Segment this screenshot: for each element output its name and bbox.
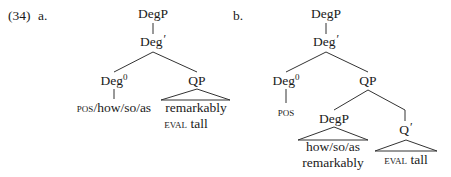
node-b-qbar-label: Q bbox=[399, 122, 409, 137]
syntax-tree-figure: (34) a. b. DegP Deg′ Deg0 pos/how/so/as … bbox=[0, 0, 451, 177]
node-a-qp: QP bbox=[188, 73, 205, 89]
terminal-a-tall: tall bbox=[187, 116, 208, 131]
terminal-b-pos: pos bbox=[278, 104, 295, 120]
terminal-b-eval: eval bbox=[384, 152, 407, 167]
superscript-zero: 0 bbox=[123, 72, 128, 82]
edge-b-qp-degp bbox=[334, 90, 368, 110]
terminal-b-remarkably: remarkably bbox=[302, 155, 363, 171]
terminal-a-eval: eval bbox=[164, 116, 187, 131]
node-b-degbar-label: Deg bbox=[313, 34, 336, 49]
prime-mark: ′ bbox=[410, 120, 413, 134]
edge-b-degbar-qp bbox=[326, 52, 368, 72]
terminal-b-how-so-as: how/so/as bbox=[306, 139, 360, 155]
node-b-degbar: Deg′ bbox=[313, 34, 339, 50]
terminal-b-pos-label: pos bbox=[278, 104, 295, 119]
terminal-b-eval-tall: eval tall bbox=[384, 152, 427, 168]
triangle-b-qbar bbox=[375, 140, 437, 151]
example-label-b: b. bbox=[233, 8, 243, 24]
prime-mark: ′ bbox=[163, 32, 166, 46]
edge-a-degbar-deg0 bbox=[114, 52, 153, 72]
node-a-degbar: Deg′ bbox=[140, 34, 166, 50]
terminal-b-tall: tall bbox=[407, 152, 428, 167]
edge-b-qp-qbar bbox=[368, 90, 405, 121]
tree-edges bbox=[0, 0, 451, 177]
node-b-deg0-label: Deg bbox=[273, 73, 296, 88]
terminal-a-eval-tall: eval tall bbox=[164, 116, 207, 132]
node-a-deg0-label: Deg bbox=[101, 73, 124, 88]
node-b-qbar: Q′ bbox=[399, 122, 412, 138]
terminal-a-head: pos/how/so/as bbox=[77, 100, 151, 116]
terminal-a-pos: pos bbox=[77, 100, 94, 115]
node-b-qp: QP bbox=[359, 73, 376, 89]
terminal-a-how-so-as: /how/so/as bbox=[93, 100, 151, 115]
superscript-zero: 0 bbox=[295, 72, 300, 82]
node-b-spec-degp: DegP bbox=[319, 111, 349, 127]
example-number: (34) bbox=[8, 8, 31, 24]
edge-b-degbar-deg0 bbox=[286, 52, 326, 72]
prime-mark: ′ bbox=[336, 32, 339, 46]
node-b-degp: DegP bbox=[311, 6, 341, 22]
node-a-degp: DegP bbox=[138, 6, 168, 22]
terminal-a-remarkably: remarkably bbox=[165, 100, 226, 116]
triangle-a-qp bbox=[161, 89, 230, 100]
node-a-deg0: Deg0 bbox=[101, 73, 128, 89]
example-label-a: a. bbox=[38, 8, 47, 24]
node-b-deg0: Deg0 bbox=[273, 73, 300, 89]
node-a-degbar-label: Deg bbox=[140, 34, 163, 49]
edge-a-degbar-qp bbox=[153, 52, 197, 72]
